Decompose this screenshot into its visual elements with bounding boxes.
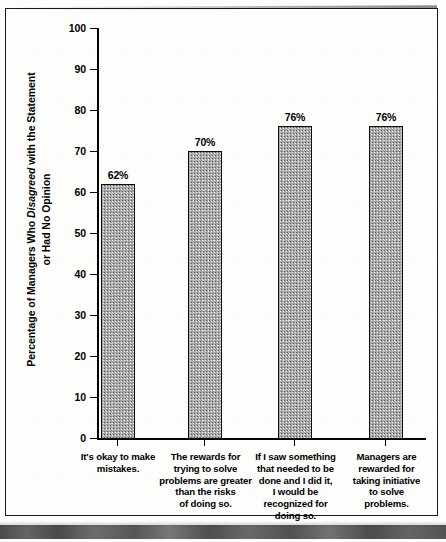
y-tick-label-40: 40 (52, 268, 86, 280)
cat2-line1: The rewards for (171, 451, 241, 462)
chart-page: Percentage of Managers Who Disagreed wit… (0, 0, 446, 542)
cat2-line2: trying to solve (174, 463, 237, 474)
y-tick-40 (90, 274, 98, 275)
bar-3[interactable] (278, 126, 312, 439)
y-tick-label-20: 20 (52, 350, 86, 362)
y-tick-label-100: 100 (52, 22, 86, 34)
y-tick-label-30: 30 (52, 309, 86, 321)
bar-4[interactable] (369, 126, 403, 439)
bar-value-1: 62% (98, 169, 138, 181)
x-tick-1 (117, 439, 118, 446)
y-tick-label-50: 50 (52, 227, 86, 239)
cat3-line2: that needed to be (257, 463, 334, 474)
cat3-line3: done and I did it, (259, 475, 333, 486)
y-axis-title-suffix: with the Statement (25, 72, 37, 167)
category-label-3: If I saw something that needed to be don… (248, 451, 343, 522)
category-label-1: It's okay to make mistakes. (73, 451, 163, 475)
y-tick-label-70: 70 (52, 145, 86, 157)
bar-value-2: 70% (185, 136, 225, 148)
y-axis-title: Percentage of Managers Who Disagreed wit… (24, 25, 53, 415)
x-tick-4 (385, 439, 386, 446)
cat4-line3: taking initiative (353, 475, 420, 486)
y-tick-label-0: 0 (52, 432, 86, 444)
cat4-line2: rewarded for (358, 463, 414, 474)
y-tick-80 (90, 110, 98, 111)
y-tick-50 (90, 233, 98, 234)
y-tick-90 (90, 69, 98, 70)
y-tick-label-60: 60 (52, 186, 86, 198)
cat4-line5: problems. (364, 498, 409, 509)
x-tick-3 (294, 439, 295, 446)
cat3-line5: recognized for (264, 498, 328, 509)
cat1-line1: It's okay to make (81, 451, 155, 462)
y-tick-0 (90, 438, 98, 439)
y-tick-label-90: 90 (52, 63, 86, 75)
cat2-line4: than the risks (175, 486, 235, 497)
category-label-4: Managers are rewarded for taking initiat… (344, 451, 429, 510)
bar-1[interactable] (101, 184, 135, 439)
bar-chart-plot: Percentage of Managers Who Disagreed wit… (0, 0, 446, 542)
y-tick-60 (90, 192, 98, 193)
y-axis-title-italic: Disagreed (25, 168, 37, 218)
y-tick-10 (90, 397, 98, 398)
cat2-line5: of doing so. (179, 498, 232, 509)
cat4-line4: to solve (369, 486, 404, 497)
category-label-2: The rewards for trying to solve problems… (157, 451, 254, 510)
y-tick-30 (90, 315, 98, 316)
y-tick-label-10: 10 (52, 391, 86, 403)
cat3-line4: I would be (273, 486, 318, 497)
cat4-line1: Managers are (356, 451, 416, 462)
bar-value-3: 76% (275, 111, 315, 123)
cat2-line3: problems are greater (159, 475, 251, 486)
cat3-line1: If I saw something (255, 451, 335, 462)
y-axis-title-prefix: Percentage of Managers Who (25, 218, 37, 367)
bar-value-4: 76% (366, 111, 406, 123)
cat3-line6: doing so. (275, 510, 316, 521)
y-tick-label-80: 80 (52, 104, 86, 116)
y-tick-70 (90, 151, 98, 152)
cat1-line2: mistakes. (97, 463, 139, 474)
bar-2[interactable] (188, 151, 222, 439)
y-tick-100 (90, 28, 98, 29)
scan-smudge-strip (0, 525, 446, 539)
y-tick-20 (90, 356, 98, 357)
x-tick-2 (204, 439, 205, 446)
